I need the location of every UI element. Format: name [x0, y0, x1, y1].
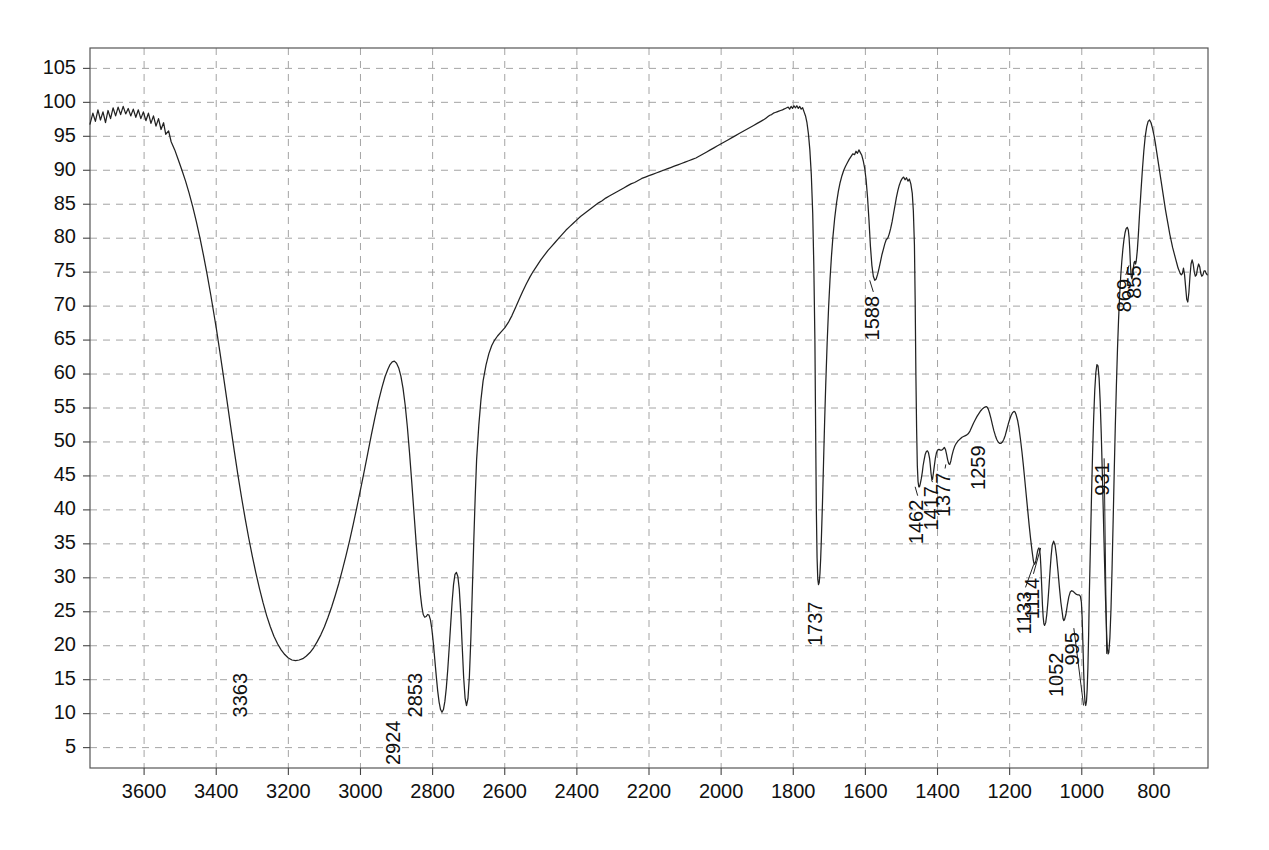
peak-label: 1737 [804, 602, 826, 647]
spectrum-chart: 1051009590858075706560555045403530252015… [0, 0, 1269, 850]
y-tick-label: 85 [54, 192, 76, 214]
x-tick-label: 3000 [338, 780, 383, 802]
peak-label: 2853 [404, 673, 426, 718]
y-tick-label: 45 [54, 463, 76, 485]
y-tick-label: 100 [43, 90, 76, 112]
x-tick-label: 3600 [122, 780, 167, 802]
x-tick-label: 2600 [482, 780, 527, 802]
y-tick-label: 10 [54, 701, 76, 723]
y-tick-label: 75 [54, 259, 76, 281]
peak-label: 1377 [932, 473, 954, 518]
x-tick-label: 1200 [987, 780, 1032, 802]
peak-label: 1588 [861, 296, 883, 341]
peak-label: 995 [1061, 632, 1083, 665]
peak-label: 1259 [967, 445, 989, 490]
x-tick-label: 1600 [843, 780, 888, 802]
x-tick-label: 1000 [1060, 780, 1105, 802]
peak-label: 855 [1123, 265, 1145, 298]
peak-leader-line [945, 464, 946, 468]
y-tick-label: 35 [54, 531, 76, 553]
y-tick-label: 55 [54, 395, 76, 417]
peak-label: 1114 [1021, 578, 1043, 620]
x-tick-label: 3200 [266, 780, 311, 802]
y-tick-label: 5 [65, 735, 76, 757]
y-tick-label: 80 [54, 225, 76, 247]
x-tick-label: 800 [1137, 780, 1170, 802]
x-tick-label: 2800 [410, 780, 455, 802]
y-tick-label: 15 [54, 667, 76, 689]
y-tick-label: 50 [54, 429, 76, 451]
y-tick-label: 70 [54, 293, 76, 315]
x-tick-label: 3400 [194, 780, 239, 802]
y-tick-label: 105 [43, 56, 76, 78]
x-tick-label: 1800 [771, 780, 816, 802]
x-tick-label: 1400 [915, 780, 960, 802]
x-tick-label: 2200 [627, 780, 672, 802]
y-tick-label: 30 [54, 565, 76, 587]
y-tick-label: 25 [54, 599, 76, 621]
y-tick-label: 95 [54, 124, 76, 146]
peak-label: 3363 [229, 673, 251, 718]
y-tick-label: 60 [54, 361, 76, 383]
chart-background [0, 0, 1269, 850]
x-tick-label: 2400 [555, 780, 600, 802]
y-tick-label: 40 [54, 497, 76, 519]
y-tick-label: 20 [54, 633, 76, 655]
peak-label: 2924 [382, 721, 404, 766]
y-tick-label: 90 [54, 158, 76, 180]
ir-spectrum-page: 1051009590858075706560555045403530252015… [0, 0, 1269, 850]
peak-label: 931 [1091, 462, 1113, 495]
y-tick-label: 65 [54, 327, 76, 349]
x-tick-label: 2000 [699, 780, 744, 802]
